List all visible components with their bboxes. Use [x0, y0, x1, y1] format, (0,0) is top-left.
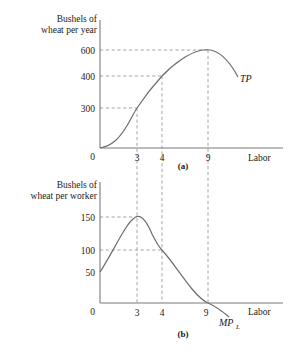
panel-a-label: (a)	[178, 161, 189, 171]
panel-b-ytick-100: 100	[81, 246, 96, 256]
panel-b-origin-label: 0	[90, 307, 95, 317]
panel-a-ylabel-line1: Bushels of	[57, 14, 98, 24]
panel-a-xlabel: Labor	[248, 153, 272, 163]
economics-production-figure: Bushels of wheat per year 600 400 300 0 …	[0, 0, 291, 351]
panel-b-ylabel-line2: wheat per worker	[31, 191, 98, 201]
panel-b-ytick-50: 50	[86, 268, 96, 278]
panel-a-xtick-9: 9	[206, 153, 211, 163]
panel-a-xtick-3: 3	[135, 153, 140, 163]
mp-curve	[100, 216, 229, 317]
panel-a-total-product: Bushels of wheat per year 600 400 300 0 …	[41, 14, 283, 303]
tp-curve-label: TP	[240, 73, 252, 84]
panel-b-marginal-product: Bushels of wheat per worker 150 100 50 0…	[31, 180, 283, 339]
panel-a-origin-label: 0	[90, 152, 95, 162]
panel-b-xtick-3: 3	[135, 308, 140, 318]
tp-curve	[100, 50, 238, 148]
mp-curve-label: MP	[218, 317, 233, 328]
mp-curve-label-subscript: L	[235, 323, 240, 331]
panel-a-ytick-300: 300	[81, 104, 96, 114]
panel-a-xtick-4: 4	[160, 153, 165, 163]
panel-b-xtick-4: 4	[160, 308, 165, 318]
panel-a-ytick-400: 400	[81, 72, 96, 82]
panel-a-ylabel-line2: wheat per year	[41, 25, 98, 35]
panel-a-ytick-600: 600	[81, 46, 96, 56]
panel-b-ytick-150: 150	[81, 213, 96, 223]
panel-b-label: (b)	[178, 329, 189, 339]
panel-b-xtick-9: 9	[204, 308, 209, 318]
panel-b-ylabel-line1: Bushels of	[57, 180, 98, 190]
panel-b-xlabel: Labor	[248, 307, 272, 317]
